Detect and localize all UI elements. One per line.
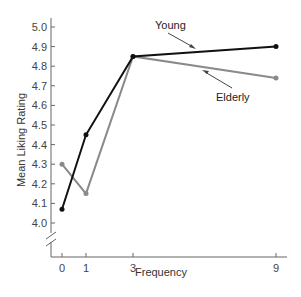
young-arrow-icon [168, 33, 193, 47]
axis-break-mark [46, 232, 56, 239]
y-tick-label: 4.0 [32, 217, 47, 229]
y-tick-label: 4.3 [32, 158, 47, 170]
y-ticks: 4.04.14.24.34.44.54.64.74.84.95.0 [32, 21, 55, 229]
young-label: Young [155, 19, 186, 31]
y-tick-label: 4.1 [32, 197, 47, 209]
y-tick-label: 4.2 [32, 178, 47, 190]
y-tick-label: 4.8 [32, 60, 47, 72]
y-tick-label: 4.4 [32, 139, 47, 151]
y-tick-label: 4.7 [32, 80, 47, 92]
y-axis-label: Mean Liking Rating [15, 93, 27, 187]
y-tick-label: 4.5 [32, 119, 47, 131]
y-tick-label: 4.9 [32, 41, 47, 53]
elderly-line [62, 56, 276, 193]
y-tick-label: 5.0 [32, 21, 47, 33]
x-tick-label: 9 [273, 262, 279, 274]
elderly-arrow-icon [205, 72, 232, 88]
young-point [60, 207, 65, 212]
line-chart: 4.04.14.24.34.44.54.64.74.84.95.0 0139 M… [0, 0, 301, 297]
young-point [131, 54, 136, 59]
x-axis-label: Frequency [135, 266, 187, 278]
series-group [60, 44, 279, 212]
young-line [62, 47, 276, 210]
young-arrowhead-icon [189, 44, 196, 49]
young-point [274, 44, 279, 49]
y-tick-label: 4.6 [32, 99, 47, 111]
elderly-label: Elderly [216, 91, 250, 103]
elderly-point [274, 75, 279, 80]
x-tick-label: 1 [83, 262, 89, 274]
young-point [84, 132, 89, 137]
elderly-point [60, 162, 65, 167]
x-tick-label: 0 [59, 262, 65, 274]
elderly-point [84, 191, 89, 196]
